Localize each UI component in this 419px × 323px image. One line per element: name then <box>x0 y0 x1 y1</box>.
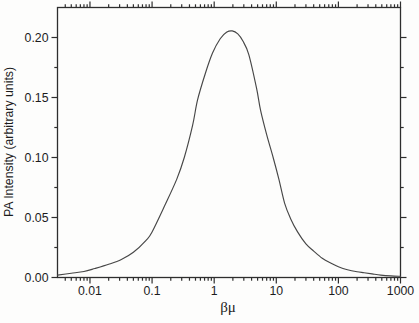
plot-border <box>58 8 401 278</box>
chart-canvas: 0.010.111010010000.000.050.100.150.20 PA… <box>0 0 419 323</box>
axis-ticks <box>52 2 407 284</box>
y-tick-label: 0.00 <box>25 271 49 285</box>
y-tick-label: 0.15 <box>25 91 49 105</box>
pa-intensity-curve <box>58 31 401 277</box>
pa-intensity-chart: 0.010.111010010000.000.050.100.150.20 PA… <box>0 0 419 323</box>
x-tick-label: 100 <box>328 284 349 298</box>
x-tick-label: 1000 <box>387 284 415 298</box>
axis-tick-labels: 0.010.111010010000.000.050.100.150.20 <box>25 31 415 298</box>
x-axis-title: βμ <box>220 299 236 315</box>
data-series <box>58 31 401 277</box>
y-tick-label: 0.20 <box>25 31 49 45</box>
y-tick-label: 0.05 <box>25 211 49 225</box>
x-tick-label: 10 <box>269 284 283 298</box>
x-tick-label: 1 <box>211 284 218 298</box>
y-axis-title: PA Intensity (arbitrary units) <box>2 67 16 217</box>
x-tick-label: 0.1 <box>144 284 161 298</box>
y-tick-label: 0.10 <box>25 151 49 165</box>
x-tick-label: 0.01 <box>78 284 102 298</box>
